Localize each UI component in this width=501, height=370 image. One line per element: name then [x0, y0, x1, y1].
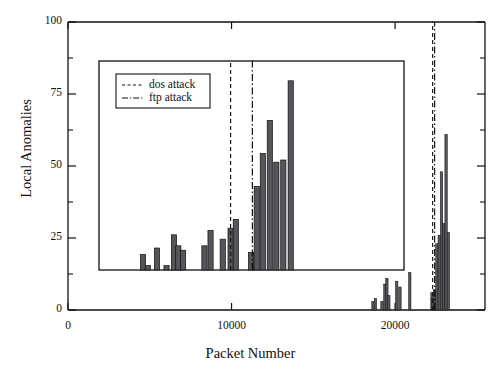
main-bar	[445, 134, 447, 310]
y-tick-label-100: 100	[22, 14, 62, 26]
inset-bar	[140, 255, 145, 270]
inset-bar	[180, 250, 185, 270]
main-bar	[372, 301, 374, 310]
main-bar	[395, 281, 397, 310]
x-axis-title: Packet Number	[0, 345, 501, 362]
inset-bar	[154, 248, 159, 270]
inset-bar	[260, 153, 265, 270]
y-tick-label-50: 50	[22, 158, 62, 170]
x-tick-label-20000: 20000	[365, 319, 425, 331]
chart-figure: Local Anomalies Packet Number 100 75 50 …	[0, 0, 501, 370]
y-axis-title: Local Anomalies	[18, 79, 35, 219]
legend-label-ftp-attack: ftp attack	[149, 91, 192, 103]
inset-bar	[220, 239, 225, 270]
main-bar	[447, 232, 449, 310]
inset-bar	[254, 186, 259, 270]
main-bar	[409, 273, 411, 310]
inset-bar	[176, 246, 181, 270]
main-bar	[381, 301, 383, 310]
main-plot-attack-lines	[433, 22, 435, 310]
y-tick-label-0: 0	[22, 302, 62, 314]
inset-bar	[202, 246, 207, 270]
inset-bar	[145, 266, 150, 270]
x-tick-label-10000: 10000	[202, 319, 262, 331]
main-bar	[440, 172, 442, 310]
main-bar	[374, 298, 376, 310]
inset-bar	[288, 81, 293, 270]
main-bar	[399, 287, 401, 310]
inset-bar	[274, 162, 279, 270]
y-tick-label-75: 75	[22, 86, 62, 98]
chart-canvas	[0, 0, 501, 370]
inset-bar	[233, 219, 238, 270]
legend-label-dos-attack: dos attack	[149, 78, 195, 90]
inset-bar	[281, 160, 286, 270]
inset-bar	[164, 266, 169, 270]
main-bar	[436, 244, 438, 310]
inset-bar	[267, 120, 272, 270]
main-bar	[443, 224, 445, 310]
inset-bar	[208, 230, 213, 270]
main-bar	[388, 296, 390, 310]
x-tick-label-0: 0	[38, 319, 98, 331]
y-tick-label-25: 25	[22, 230, 62, 242]
